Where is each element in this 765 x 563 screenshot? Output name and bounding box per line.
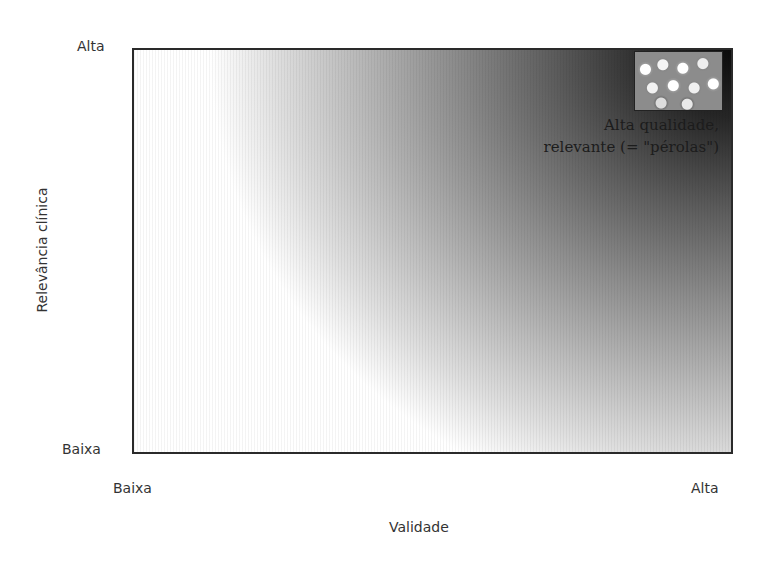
pearls-image [634, 51, 723, 111]
x-axis-title: Validade [389, 519, 449, 535]
y-axis-title: Relevância clínica [34, 187, 50, 312]
y-axis-low-label: Baixa [62, 441, 101, 457]
pearls-annotation: Alta qualidade, relevante (= "pérolas") [544, 114, 719, 158]
y-axis-high-label: Alta [77, 38, 105, 54]
annotation-line-2: relevante (= "pérolas") [544, 136, 719, 158]
annotation-line-1: Alta qualidade, [544, 114, 719, 136]
quality-relevance-plot: Alta qualidade, relevante (= "pérolas") [132, 48, 733, 454]
x-axis-high-label: Alta [691, 480, 719, 496]
x-axis-low-label: Baixa [113, 480, 152, 496]
